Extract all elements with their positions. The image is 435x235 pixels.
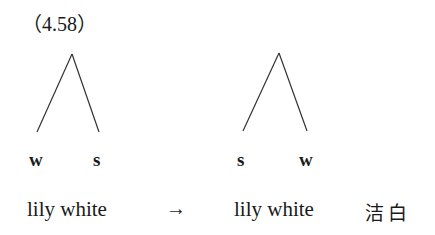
right-tree-weak-label: w: [299, 149, 313, 171]
left-tree-weak-label: w: [29, 149, 43, 171]
right-phrase: lily white: [234, 197, 314, 222]
left-phrase: lily white: [27, 197, 107, 222]
chinese-gloss: 洁白: [365, 198, 411, 225]
arrow-icon: →: [166, 197, 186, 220]
right-tree-strong-label: s: [237, 149, 244, 171]
left-tree-branches: [37, 54, 99, 132]
left-tree-strong-label: s: [93, 149, 100, 171]
right-tree-branches: [243, 53, 307, 131]
